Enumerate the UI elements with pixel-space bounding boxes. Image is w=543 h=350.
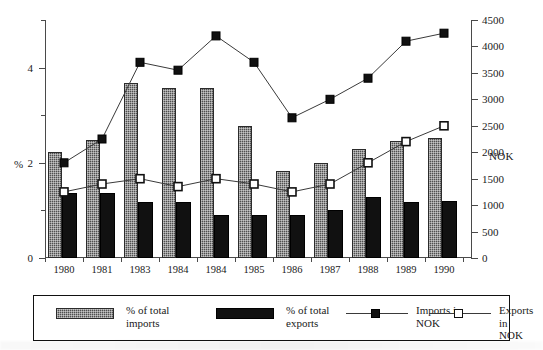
line-series-layer xyxy=(45,20,463,258)
y-right-tick xyxy=(471,20,478,21)
x-tick-label-10: 1990 xyxy=(422,264,466,275)
legend-exports-nok-label-line2: NOK xyxy=(499,329,533,342)
marker-1-9 xyxy=(402,138,410,146)
open-square-icon xyxy=(454,309,463,318)
marker-1-8 xyxy=(364,159,372,167)
y-right-tick xyxy=(471,258,478,259)
plot-area xyxy=(45,20,463,258)
y-right-tick xyxy=(471,179,478,180)
chart-figure: % NOK 024 050010001500200025003000350040… xyxy=(0,0,543,350)
legend-imports-percent-swatch xyxy=(56,308,114,319)
marker-1-10 xyxy=(440,122,448,130)
legend-imports-nok-marker xyxy=(346,308,408,320)
y-right-tick xyxy=(471,126,478,127)
page-smudge xyxy=(0,341,543,350)
y-right-tick xyxy=(471,99,478,100)
marker-0-0 xyxy=(60,159,68,167)
marker-0-6 xyxy=(288,114,296,122)
chart-legend: % of totalimports% of totalexportsImport… xyxy=(33,295,510,341)
y-right-tick xyxy=(471,46,478,47)
y-left-tick-label: 0 xyxy=(0,253,33,263)
legend-imports-percent-label-line2: imports xyxy=(126,317,169,330)
y-right-tick-label: 1000 xyxy=(482,200,522,210)
filled-square-icon xyxy=(371,309,380,318)
marker-0-7 xyxy=(326,95,334,103)
y-right-tick-label: 4500 xyxy=(482,15,522,25)
y-right-tick xyxy=(471,232,478,233)
marker-0-8 xyxy=(364,74,372,82)
marker-0-5 xyxy=(250,58,258,66)
marker-0-4 xyxy=(212,32,220,40)
y-right-tick-label: 0 xyxy=(482,253,522,263)
legend-exports-percent-label-line2: exports xyxy=(286,317,329,330)
legend-imports-percent-label: % of totalimports xyxy=(126,304,169,329)
line-path-0 xyxy=(64,33,444,163)
y-right-tick-label: 500 xyxy=(482,227,522,237)
marker-1-1 xyxy=(98,180,106,188)
y-right-tick-label: 3000 xyxy=(482,94,522,104)
legend-exports-percent-swatch xyxy=(216,308,274,319)
y-right-tick-label: 4000 xyxy=(482,41,522,51)
marker-1-7 xyxy=(326,180,334,188)
y-right-tick xyxy=(471,205,478,206)
y-right-tick-label: 2500 xyxy=(482,121,522,131)
marker-0-3 xyxy=(174,66,182,74)
marker-1-6 xyxy=(288,188,296,196)
y-left-tick-label: 2 xyxy=(0,158,33,168)
legend-exports-percent-label-line1: % of total xyxy=(286,304,329,317)
legend-exports-nok-marker xyxy=(429,308,491,320)
y-right-tick-label: 2000 xyxy=(482,147,522,157)
marker-0-9 xyxy=(402,37,410,45)
marker-1-3 xyxy=(174,183,182,191)
y-right-tick-label: 1500 xyxy=(482,174,522,184)
y-right-tick xyxy=(471,152,478,153)
y-left-tick-label: 4 xyxy=(0,63,33,73)
legend-exports-nok-label-line1: Exports in xyxy=(499,304,533,329)
marker-1-0 xyxy=(60,188,68,196)
legend-exports-percent-label: % of totalexports xyxy=(286,304,329,329)
y-right-tick xyxy=(471,73,478,74)
marker-0-10 xyxy=(440,29,448,37)
legend-imports-percent-label-line1: % of total xyxy=(126,304,169,317)
marker-1-4 xyxy=(212,175,220,183)
marker-0-1 xyxy=(98,135,106,143)
y-right-tick-label: 3500 xyxy=(482,68,522,78)
legend-exports-nok-label: Exports inNOK xyxy=(499,304,533,342)
marker-1-2 xyxy=(136,175,144,183)
y-axis-right-line xyxy=(471,20,472,258)
x-tick xyxy=(463,257,464,262)
marker-0-2 xyxy=(136,58,144,66)
marker-1-5 xyxy=(250,180,258,188)
